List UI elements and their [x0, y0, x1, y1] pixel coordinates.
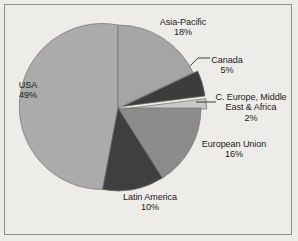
- pie-label-c-europe-value: 2%: [205, 113, 297, 123]
- pie-label-c-europe-name-line2: East & Africa: [205, 102, 297, 112]
- pie-label-asia-pacific: Asia-Pacific 18%: [140, 17, 226, 38]
- pie-label-latin-america-name: Latin America: [123, 192, 177, 202]
- pie-label-canada-name: Canada: [211, 55, 242, 65]
- pie-label-usa: USA 49%: [7, 80, 49, 101]
- pie-label-canada-value: 5%: [196, 65, 258, 75]
- pie-label-asia-pacific-name: Asia-Pacific: [160, 17, 206, 27]
- pie-label-usa-value: 49%: [7, 90, 49, 100]
- pie-label-european-union-name: European Union: [202, 139, 266, 149]
- pie-label-usa-name: USA: [19, 80, 37, 90]
- pie-label-latin-america-value: 10%: [109, 202, 191, 212]
- pie-label-european-union-value: 16%: [190, 149, 278, 159]
- pie-label-canada: Canada 5%: [196, 55, 258, 76]
- pie-label-c-europe-middle-east-africa: C. Europe, Middle East & Africa 2%: [205, 92, 297, 123]
- pie-label-european-union: European Union 16%: [190, 139, 278, 160]
- pie-slice-usa[interactable]: [19, 24, 118, 190]
- pie-label-latin-america: Latin America 10%: [109, 192, 191, 213]
- pie-label-c-europe-name-line1: C. Europe, Middle: [215, 92, 286, 102]
- pie-label-asia-pacific-value: 18%: [140, 27, 226, 37]
- chart-container: Asia-Pacific 18% Canada 5% C. Europe, Mi…: [0, 0, 298, 241]
